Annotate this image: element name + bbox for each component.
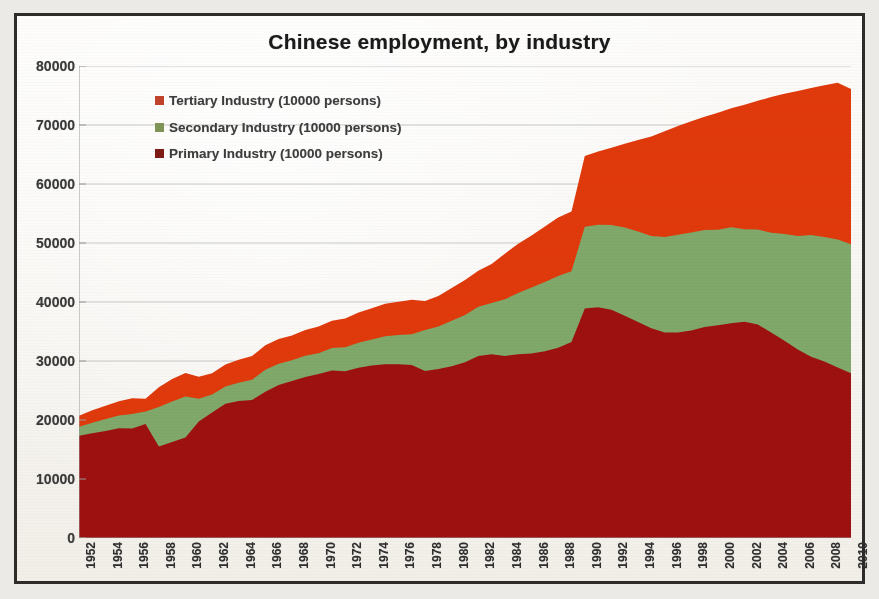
legend-item: Secondary Industry (10000 persons) xyxy=(155,121,402,135)
x-tick-label: 1958 xyxy=(164,542,178,569)
x-tick-label: 1994 xyxy=(643,542,657,569)
x-tick-label: 1968 xyxy=(297,542,311,569)
x-tick-label: 1988 xyxy=(563,542,577,569)
x-tick-label: 2002 xyxy=(750,542,764,569)
page-frame: Chinese employment, by industry 01000020… xyxy=(14,13,865,584)
x-axis-tick-labels: 1952195419561958196019621964196619681970… xyxy=(79,540,851,599)
legend-label: Primary Industry (10000 persons) xyxy=(169,147,383,161)
x-tick-label: 1980 xyxy=(457,542,471,569)
x-tick-label: 1992 xyxy=(616,542,630,569)
x-tick-label: 1982 xyxy=(483,542,497,569)
legend-swatch-icon xyxy=(155,96,164,105)
x-tick-label: 1986 xyxy=(537,542,551,569)
y-axis-tick-labels: 0100002000030000400005000060000700008000… xyxy=(17,66,75,538)
x-tick-label: 1962 xyxy=(217,542,231,569)
y-tick-label: 50000 xyxy=(17,235,75,251)
x-tick-label: 2006 xyxy=(803,542,817,569)
x-tick-label: 2000 xyxy=(723,542,737,569)
x-tick-label: 1964 xyxy=(244,542,258,569)
legend-swatch-icon xyxy=(155,149,164,158)
y-tick-label: 20000 xyxy=(17,412,75,428)
x-tick-label: 1956 xyxy=(137,542,151,569)
chart-figure: Chinese employment, by industry 01000020… xyxy=(17,16,862,581)
x-tick-label: 1998 xyxy=(696,542,710,569)
x-tick-label: 1996 xyxy=(670,542,684,569)
x-tick-label: 1990 xyxy=(590,542,604,569)
y-tick-label: 40000 xyxy=(17,294,75,310)
x-tick-label: 1960 xyxy=(190,542,204,569)
y-tick-label: 10000 xyxy=(17,471,75,487)
x-tick-label: 1976 xyxy=(403,542,417,569)
y-tick-label: 70000 xyxy=(17,117,75,133)
chart-title: Chinese employment, by industry xyxy=(17,30,862,54)
x-tick-label: 2008 xyxy=(829,542,843,569)
legend-item: Tertiary Industry (10000 persons) xyxy=(155,94,402,108)
legend-label: Secondary Industry (10000 persons) xyxy=(169,121,402,135)
x-tick-label: 1970 xyxy=(324,542,338,569)
x-tick-label: 1952 xyxy=(84,542,98,569)
scanned-chart-page: Chinese employment, by industry 01000020… xyxy=(0,0,879,599)
y-tick-label: 0 xyxy=(17,530,75,546)
legend-label: Tertiary Industry (10000 persons) xyxy=(169,94,381,108)
x-tick-label: 1978 xyxy=(430,542,444,569)
x-tick-label: 1974 xyxy=(377,542,391,569)
x-tick-label: 2010 xyxy=(856,542,870,569)
y-tick-label: 60000 xyxy=(17,176,75,192)
x-tick-label: 2004 xyxy=(776,542,790,569)
chart-legend: Tertiary Industry (10000 persons)Seconda… xyxy=(155,94,402,174)
legend-item: Primary Industry (10000 persons) xyxy=(155,147,402,161)
x-tick-label: 1972 xyxy=(350,542,364,569)
legend-swatch-icon xyxy=(155,123,164,132)
x-tick-label: 1966 xyxy=(270,542,284,569)
x-tick-label: 1984 xyxy=(510,542,524,569)
x-tick-label: 1954 xyxy=(111,542,125,569)
y-tick-label: 30000 xyxy=(17,353,75,369)
y-tick-label: 80000 xyxy=(17,58,75,74)
